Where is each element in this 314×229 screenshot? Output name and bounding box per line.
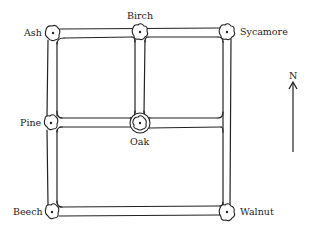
north-arrow-icon: N <box>289 70 297 152</box>
tree-pine <box>44 115 57 130</box>
compass-label: N <box>289 70 297 81</box>
label-birch: Birch <box>127 10 153 21</box>
tree-ash <box>45 25 59 40</box>
tree-sycamore <box>219 24 234 40</box>
tree-beech <box>45 204 58 219</box>
label-pine: Pine <box>20 117 42 128</box>
tree-oak <box>130 113 150 133</box>
tree-walnut <box>219 204 234 221</box>
label-walnut: Walnut <box>240 206 274 217</box>
label-beech: Beech <box>13 206 43 217</box>
label-ash: Ash <box>23 27 42 38</box>
label-oak: Oak <box>130 136 149 147</box>
tree-birch <box>132 24 147 40</box>
label-sycamore: Sycamore <box>240 26 288 37</box>
street-map-diagram: Ash Birch Sycamore Pine Oak Beech Walnut… <box>0 0 314 229</box>
tree-markers <box>44 24 234 221</box>
